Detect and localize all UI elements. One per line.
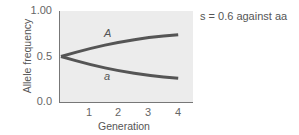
- series-line-a: [61, 57, 178, 79]
- chart-lines: [0, 0, 299, 135]
- series-line-A: [61, 35, 178, 57]
